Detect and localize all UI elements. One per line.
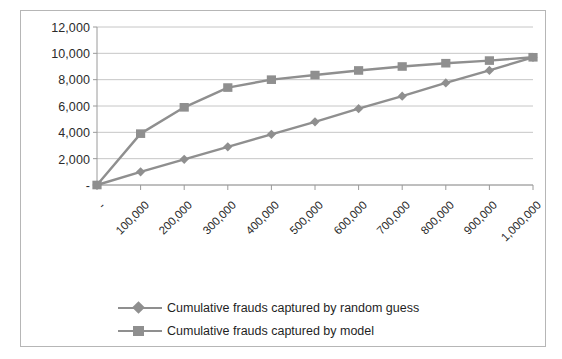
chart-legend: Cumulative frauds captured by random gue…	[118, 296, 448, 342]
series-layer	[92, 53, 537, 190]
gridlines	[97, 27, 533, 185]
legend-item-random-guess: Cumulative frauds captured by random gue…	[118, 296, 448, 319]
chart-container: 12,000 10,000 8,000 6,000 4,000 2,000 - …	[0, 0, 562, 359]
legend-marker-square-icon	[118, 324, 162, 338]
legend-label: Cumulative frauds captured by random gue…	[162, 301, 419, 315]
legend-marker-diamond-icon	[118, 301, 162, 315]
legend-item-model: Cumulative frauds captured by model	[118, 319, 448, 342]
x-axis-ticks	[97, 185, 533, 190]
legend-label: Cumulative frauds captured by model	[162, 324, 374, 338]
